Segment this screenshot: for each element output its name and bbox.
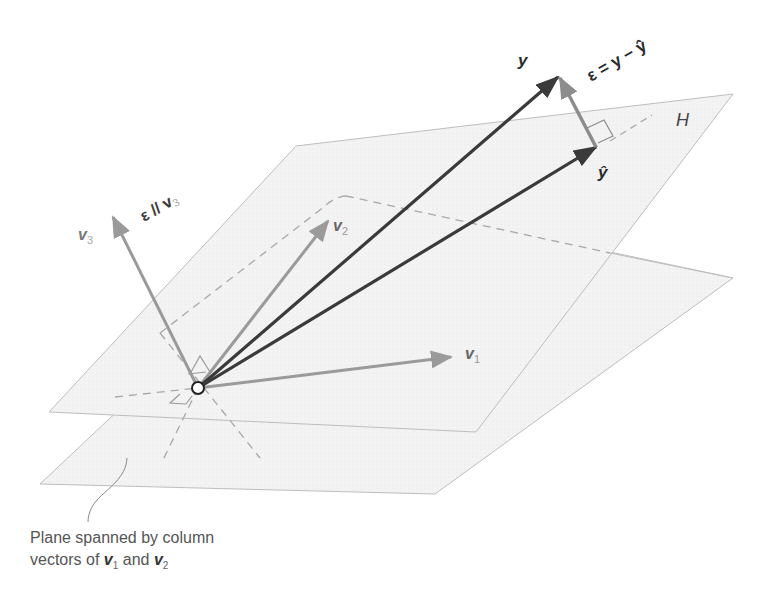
caption-line-2: vectors of v1 and v2 (30, 549, 290, 577)
label-H: H (676, 110, 690, 130)
caption-line-1: Plane spanned by column (30, 527, 290, 549)
plane-caption: Plane spanned by column vectors of v1 an… (30, 527, 290, 577)
svg-text:ε = y − ŷ: ε = y − ŷ (584, 36, 651, 86)
svg-text:ε // v3: ε // v3 (137, 190, 181, 227)
origin-point (192, 382, 204, 394)
label-y-hat: ŷ (597, 163, 609, 182)
least-squares-projection-diagram: y ŷ H ε = y − ŷ ε // v3 v3 v2 v1 (0, 0, 769, 592)
label-epsilon-equation: ε = y − ŷ (584, 36, 651, 86)
label-y: y (517, 51, 529, 70)
label-epsilon-parallel-v3: ε // v3 (137, 190, 181, 227)
label-v3: v3 (78, 226, 93, 246)
